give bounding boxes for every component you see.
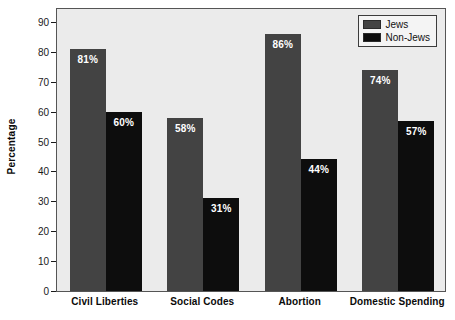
bar-value-label: 81% — [70, 54, 106, 65]
x-axis-tick-label: Abortion — [251, 296, 349, 307]
bar: 86% — [265, 34, 301, 291]
bar-value-label: 44% — [301, 164, 337, 175]
bar-chart: Percentage 0102030405060708090 81%60%58%… — [0, 0, 455, 320]
y-axis-title-text: Percentage — [7, 118, 18, 174]
plot-area: 81%60%58%31%86%44%74%57% JewsNon-Jews — [56, 8, 446, 292]
y-axis-tick-label: 40 — [22, 166, 56, 178]
legend-swatch-icon — [363, 33, 381, 42]
bar-value-label: 57% — [398, 126, 434, 137]
y-axis-tick-label: 20 — [22, 226, 56, 238]
bar-value-label: 31% — [203, 203, 239, 214]
x-axis-tick-label: Civil Liberties — [56, 296, 154, 307]
y-axis-tick-label: 80 — [22, 47, 56, 59]
plot-inner: 81%60%58%31%86%44%74%57% — [57, 9, 445, 291]
legend-item: Jews — [363, 19, 430, 30]
bar: 74% — [362, 70, 398, 291]
y-axis-tick-label: 30 — [22, 196, 56, 208]
legend: JewsNon-Jews — [358, 15, 437, 47]
bar: 81% — [70, 49, 106, 291]
bar-value-label: 74% — [362, 75, 398, 86]
bar: 44% — [301, 159, 337, 291]
y-axis-tick-label: 10 — [22, 256, 56, 268]
y-axis-tick-label: 50 — [22, 137, 56, 149]
y-axis-tick-label: 0 — [22, 286, 56, 298]
legend-item-label: Non-Jews — [386, 32, 430, 43]
bar-value-label: 58% — [167, 123, 203, 134]
x-axis: Civil LibertiesSocial CodesAbortionDomes… — [56, 294, 446, 316]
y-axis-tick-label: 60 — [22, 107, 56, 119]
bar: 58% — [167, 118, 203, 291]
legend-swatch-icon — [363, 20, 381, 29]
bar: 31% — [203, 198, 239, 291]
bar-value-label: 60% — [106, 117, 142, 128]
bar: 57% — [398, 121, 434, 291]
x-axis-tick-label: Social Codes — [154, 296, 252, 307]
x-axis-tick-label: Domestic Spending — [349, 296, 447, 307]
bar-value-label: 86% — [265, 39, 301, 50]
y-axis-tick-label: 90 — [22, 17, 56, 29]
legend-item-label: Jews — [386, 19, 409, 30]
y-axis-title: Percentage — [2, 0, 22, 292]
y-axis: 0102030405060708090 — [22, 8, 56, 292]
bar: 60% — [106, 112, 142, 291]
y-axis-tick-label: 70 — [22, 77, 56, 89]
legend-item: Non-Jews — [363, 32, 430, 43]
